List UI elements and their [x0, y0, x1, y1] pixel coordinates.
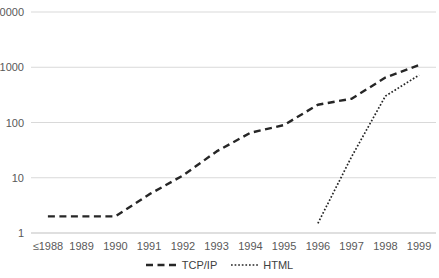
x-axis-tick-label: ≤1988 — [33, 240, 64, 252]
legend: TCP/IP HTML — [0, 257, 439, 273]
x-axis-tick-label: 1991 — [137, 240, 161, 252]
legend-label-tcpip: TCP/IP — [182, 260, 217, 271]
chart-svg: 110100100010000≤198819891990199119921993… — [0, 0, 439, 278]
x-axis-tick-label: 1996 — [306, 240, 330, 252]
x-axis-tick-label: 1997 — [339, 240, 363, 252]
x-axis-tick-label: 1990 — [103, 240, 127, 252]
x-axis-tick-label: 1993 — [204, 240, 228, 252]
y-axis-tick-label: 1 — [18, 227, 24, 239]
legend-item-tcpip[interactable]: TCP/IP — [146, 260, 217, 271]
legend-item-html[interactable]: HTML — [231, 260, 293, 271]
dotted-line-key-icon — [231, 262, 258, 268]
legend-label-html: HTML — [263, 260, 293, 271]
x-axis-tick-label: 1992 — [171, 240, 195, 252]
y-axis-tick-label: 10000 — [0, 6, 24, 18]
y-axis-tick-label: 10 — [12, 172, 24, 184]
y-axis-tick-label: 100 — [6, 117, 24, 129]
x-axis-tick-label: 1998 — [373, 240, 397, 252]
x-axis-tick-label: 1995 — [272, 240, 296, 252]
x-axis-tick-label: 1999 — [407, 240, 431, 252]
y-axis-tick-label: 1000 — [0, 61, 24, 73]
series-line-html[interactable] — [318, 75, 419, 223]
series-line-tcpip[interactable] — [48, 65, 419, 216]
x-axis-tick-label: 1994 — [238, 240, 262, 252]
log-line-chart: 110100100010000≤198819891990199119921993… — [0, 0, 439, 278]
dashed-line-key-icon — [146, 262, 177, 268]
x-axis-tick-label: 1989 — [69, 240, 93, 252]
